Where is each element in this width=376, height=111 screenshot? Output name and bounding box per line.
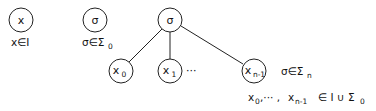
caption-children: x 0 ,··· , x n-1 ∈ I ∪ Σ 0 [248,91,365,106]
node-label: σ [92,14,99,27]
node-leaf-x: x [9,8,33,32]
node-child-x0: x 0 [109,59,133,83]
node-label: x [163,64,170,77]
caption-x0: x [248,91,254,103]
caption-leaf-x: x∈I [11,36,29,48]
caption-set: ∈ I ∪ Σ [318,91,355,103]
caption-subscript: n [307,71,312,80]
caption-xn: x [288,91,294,103]
tree-grammar-diagram: x σ σ x 0 x 1 ··· x n-1 x∈I σ∈Σ 0 σ∈Σ n [0,0,376,111]
caption-xn-sub: n-1 [295,97,307,106]
caption-set-sub: 0 [360,97,365,106]
node-child-x1: x 1 [158,59,182,83]
node-subscript: 1 [172,70,177,79]
edges [129,26,243,64]
node-label: x [18,14,25,27]
ellipsis: ··· [186,64,197,77]
node-root-sigma: σ [158,8,182,32]
node-child-xn-1: x n-1 [242,59,266,83]
edge-root-x0 [129,29,162,62]
caption-subscript: 0 [108,42,113,51]
caption-tree: σ∈Σ n [281,65,312,80]
caption-sep: ,··· , [260,91,280,103]
caption-main: σ∈Σ [82,36,104,48]
node-label: σ [167,14,174,27]
edge-root-xn-1 [181,26,243,64]
node-label: x [245,64,252,77]
node-subscript: 0 [122,70,127,79]
node-leaf-sigma: σ [83,8,107,32]
node-label: x [113,64,120,77]
caption-leaf-sigma: σ∈Σ 0 [82,36,113,51]
caption-main: σ∈Σ [281,65,303,77]
node-subscript: n-1 [253,70,265,79]
